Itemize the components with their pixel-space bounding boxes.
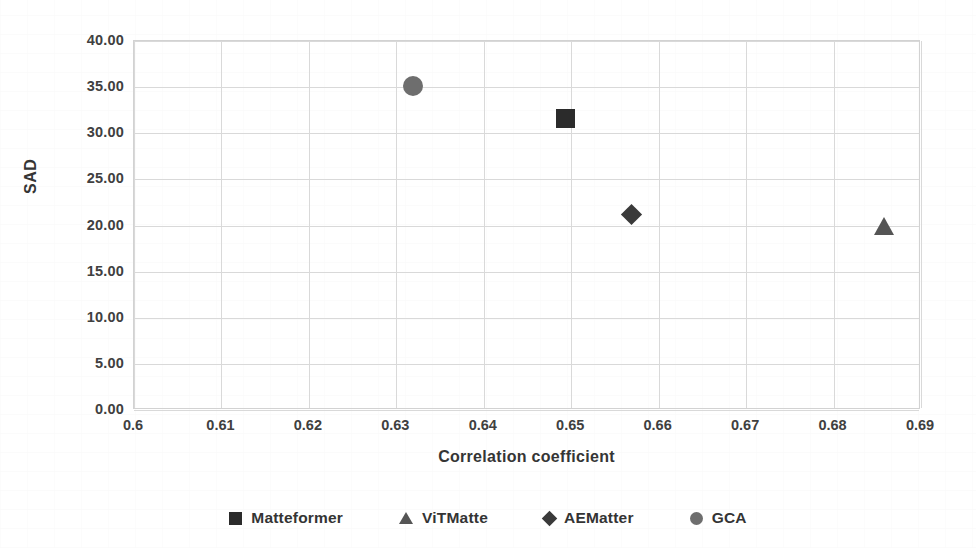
plot-area xyxy=(133,40,920,409)
gridline-horizontal xyxy=(134,87,919,88)
y-axis-tick-label: 35.00 xyxy=(4,79,124,94)
y-axis-tick-label: 25.00 xyxy=(4,171,124,186)
gridline-horizontal xyxy=(134,226,919,227)
data-point-matteformer[interactable] xyxy=(556,109,575,128)
x-axis-title: Correlation coefficient xyxy=(133,448,920,466)
y-axis-tick-label: 40.00 xyxy=(4,33,124,48)
legend-item-matteformer[interactable]: Matteformer xyxy=(229,509,343,527)
legend-item-label: ViTMatte xyxy=(422,509,488,527)
legend-item-vitmatte[interactable]: ViTMatte xyxy=(399,509,488,527)
data-point-gca[interactable] xyxy=(403,76,423,96)
diamond-marker-icon xyxy=(542,510,558,526)
gridline-horizontal xyxy=(134,364,919,365)
legend-item-aematter[interactable]: AEMatter xyxy=(544,509,634,527)
gridline-horizontal xyxy=(134,133,919,134)
data-point-aematter[interactable] xyxy=(621,204,642,225)
y-axis-tick-label: 10.00 xyxy=(4,310,124,325)
gridline-horizontal xyxy=(134,318,919,319)
x-axis-tick-label: 0.62 xyxy=(268,416,348,435)
x-axis-tick-label: 0.66 xyxy=(618,416,698,435)
chart-legend: MatteformerViTMatteAEMatterGCA xyxy=(0,498,976,538)
y-axis-tick-labels: 0.005.0010.0015.0020.0025.0030.0035.0040… xyxy=(0,40,124,409)
legend-item-label: Matteformer xyxy=(251,509,343,527)
x-axis-tick-label: 0.67 xyxy=(705,416,785,435)
y-axis-tick-label: 15.00 xyxy=(4,263,124,278)
data-point-vitmatte[interactable] xyxy=(874,217,894,235)
gridline-horizontal xyxy=(134,410,919,411)
gridline-vertical xyxy=(746,41,747,408)
y-axis-tick-label: 0.00 xyxy=(4,402,124,417)
gridline-vertical xyxy=(134,41,135,408)
x-axis-tick-labels: 0.60.610.620.630.640.650.660.670.680.69 xyxy=(133,416,920,440)
x-axis-tick-label: 0.68 xyxy=(793,416,873,435)
gridline-vertical xyxy=(484,41,485,408)
x-axis-tick-label: 0.64 xyxy=(443,416,523,435)
scatter-chart: SAD 0.005.0010.0015.0020.0025.0030.0035.… xyxy=(0,0,976,548)
legend-item-label: GCA xyxy=(712,509,747,527)
gridline-vertical xyxy=(309,41,310,408)
gridline-vertical xyxy=(921,41,922,408)
circle-marker-icon xyxy=(690,512,703,525)
triangle-marker-icon xyxy=(399,512,413,524)
x-axis-tick-label: 0.61 xyxy=(180,416,260,435)
y-axis-tick-label: 30.00 xyxy=(4,125,124,140)
square-marker-icon xyxy=(229,512,242,525)
legend-item-gca[interactable]: GCA xyxy=(690,509,747,527)
gridline-vertical xyxy=(396,41,397,408)
x-axis-tick-label: 0.65 xyxy=(530,416,610,435)
gridline-vertical xyxy=(659,41,660,408)
gridline-vertical xyxy=(221,41,222,408)
legend-item-label: AEMatter xyxy=(564,509,634,527)
gridline-vertical xyxy=(571,41,572,408)
y-axis-tick-label: 5.00 xyxy=(4,356,124,371)
gridline-horizontal xyxy=(134,41,919,42)
x-axis-tick-label: 0.6 xyxy=(93,416,173,435)
gridline-horizontal xyxy=(134,272,919,273)
gridline-vertical xyxy=(834,41,835,408)
gridline-horizontal xyxy=(134,179,919,180)
x-axis-tick-label: 0.63 xyxy=(355,416,435,435)
x-axis-tick-label: 0.69 xyxy=(880,416,960,435)
y-axis-tick-label: 20.00 xyxy=(4,217,124,232)
